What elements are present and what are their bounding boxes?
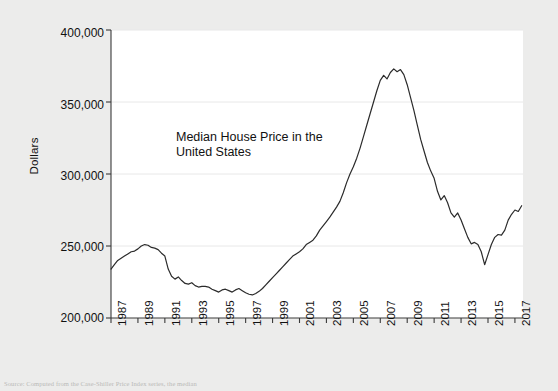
y-tick-label-200000: 200,000 — [32, 311, 104, 325]
x-tick-label-1987: 1987 — [116, 300, 128, 326]
x-tick-label-2001: 2001 — [304, 300, 316, 326]
y-tick-label-350000: 350,000 — [32, 98, 104, 112]
x-tick-label-1997: 1997 — [251, 300, 263, 326]
x-tick-label-2015: 2015 — [493, 300, 505, 326]
x-tick-label-2009: 2009 — [412, 300, 424, 326]
y-tick-label-250000: 250,000 — [32, 240, 104, 254]
x-tick-label-2007: 2007 — [385, 300, 397, 326]
chart-annotation-title-line1: Median House Price in the — [176, 130, 356, 145]
x-tick-label-1993: 1993 — [197, 300, 209, 326]
x-tick-label-1991: 1991 — [170, 300, 182, 326]
chart-annotation-title-line2: United States — [176, 145, 356, 160]
x-tick-label-2013: 2013 — [466, 300, 478, 326]
chart-annotation-title: Median House Price in the United States — [176, 130, 356, 160]
y-tick-label-300000: 300,000 — [32, 169, 104, 183]
x-tick-label-2005: 2005 — [358, 300, 370, 326]
x-tick-label-2011: 2011 — [439, 301, 451, 326]
x-tick-label-2017: 2017 — [520, 300, 532, 326]
x-tick-label-1999: 1999 — [278, 300, 290, 326]
y-tick-label-400000: 400,000 — [32, 26, 104, 40]
x-tick-label-1989: 1989 — [143, 300, 155, 326]
source-note: Source: Computed from the Case-Shiller P… — [4, 380, 197, 387]
y-tick-label-group: 400,000 350,000 300,000 250,000 200,000 — [26, 0, 104, 318]
figure-page: Dollars 400,000 350,000 300,000 250,000 … — [0, 0, 558, 391]
x-tick-label-1995: 1995 — [224, 300, 236, 326]
data-series-line — [111, 69, 522, 295]
x-tick-label-2003: 2003 — [331, 300, 343, 326]
